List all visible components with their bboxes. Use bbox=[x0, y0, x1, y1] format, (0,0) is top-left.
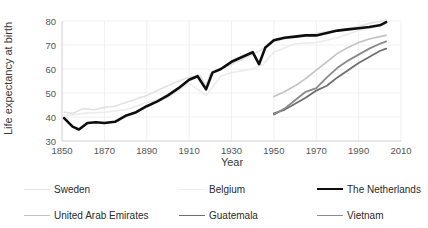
svg-text:1850: 1850 bbox=[51, 145, 72, 156]
legend-label-the-netherlands: The Netherlands bbox=[347, 184, 421, 195]
svg-text:80: 80 bbox=[45, 16, 56, 27]
y-axis-label: Life expectancy at birth bbox=[2, 22, 14, 135]
svg-text:1950: 1950 bbox=[263, 145, 284, 156]
svg-text:1990: 1990 bbox=[348, 145, 369, 156]
legend-label-vietnam: Vietnam bbox=[347, 210, 384, 221]
legend-swatch-guatemala bbox=[179, 215, 205, 216]
plot-figure: 304050607080 185018701890191019301950197… bbox=[0, 0, 428, 176]
x-axis-label: Year bbox=[221, 156, 244, 168]
svg-text:1970: 1970 bbox=[306, 145, 327, 156]
svg-text:2010: 2010 bbox=[390, 145, 411, 156]
svg-text:40: 40 bbox=[45, 112, 56, 123]
svg-text:60: 60 bbox=[45, 64, 56, 75]
legend-swatch-vietnam bbox=[317, 215, 343, 216]
legend-swatch-the-netherlands bbox=[317, 188, 343, 190]
svg-text:50: 50 bbox=[45, 88, 56, 99]
y-tick-labels: 304050607080 bbox=[45, 16, 56, 147]
data-series bbox=[64, 20, 386, 129]
svg-text:1890: 1890 bbox=[136, 145, 157, 156]
series-line-belgium bbox=[64, 25, 386, 116]
legend-label-belgium: Belgium bbox=[209, 184, 245, 195]
legend-item-united-arab-emirates[interactable]: United Arab Emirates bbox=[22, 210, 175, 221]
x-tick-labels: 185018701890191019301950197019902010 bbox=[51, 145, 411, 156]
legend-swatch-sweden bbox=[24, 189, 50, 190]
svg-text:1870: 1870 bbox=[94, 145, 115, 156]
series-line-vietnam bbox=[274, 41, 386, 114]
legend-label-united-arab-emirates: United Arab Emirates bbox=[54, 210, 149, 221]
life-expectancy-chart: 304050607080 185018701890191019301950197… bbox=[0, 0, 428, 228]
legend-item-the-netherlands[interactable]: The Netherlands bbox=[315, 184, 428, 195]
legend-label-sweden: Sweden bbox=[54, 184, 90, 195]
legend-item-guatemala[interactable]: Guatemala bbox=[177, 210, 315, 221]
chart-legend: Sweden Belgium The Netherlands United Ar… bbox=[0, 176, 428, 228]
legend-swatch-belgium bbox=[179, 189, 205, 190]
legend-item-vietnam[interactable]: Vietnam bbox=[315, 210, 428, 221]
legend-item-belgium[interactable]: Belgium bbox=[177, 184, 315, 195]
svg-text:70: 70 bbox=[45, 40, 56, 51]
legend-item-sweden[interactable]: Sweden bbox=[22, 184, 175, 195]
plot-svg: 304050607080 185018701890191019301950197… bbox=[0, 0, 428, 176]
svg-text:1910: 1910 bbox=[179, 145, 200, 156]
svg-text:1930: 1930 bbox=[221, 145, 242, 156]
legend-label-guatemala: Guatemala bbox=[209, 210, 258, 221]
legend-swatch-united-arab-emirates bbox=[24, 215, 50, 216]
